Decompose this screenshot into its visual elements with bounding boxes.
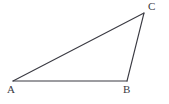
vertex-label-b: B [123,84,130,95]
triangle-edge-bc [127,13,144,81]
vertex-label-a: A [7,84,15,95]
triangle-figure-canvas: A B C [0,0,169,104]
triangle-svg [0,0,169,104]
vertex-label-c: C [148,1,155,12]
triangle-edge-ca [13,13,144,81]
